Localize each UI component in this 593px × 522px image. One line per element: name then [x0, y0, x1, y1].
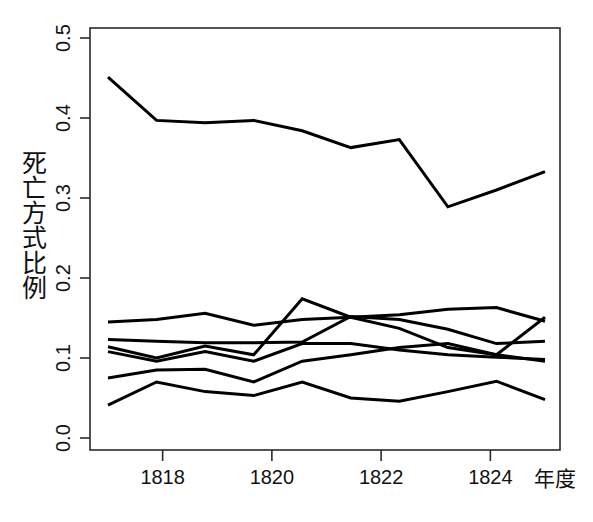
- axis-box: [90, 28, 560, 450]
- x-tick-label: 1820: [250, 466, 295, 489]
- y-tick-label: 0.1: [52, 332, 75, 384]
- chart-figure: 死亡方式比例 年度 1818182018221824 0.00.10.20.30…: [0, 0, 593, 522]
- series-line: [108, 308, 545, 326]
- series-lines: [108, 77, 545, 405]
- plot-border: [90, 28, 560, 450]
- y-tick-label: 0.4: [52, 92, 75, 144]
- plot-canvas: [0, 0, 593, 522]
- series-line: [108, 77, 545, 207]
- x-tick-label: 1824: [468, 466, 513, 489]
- y-axis-title: 死亡方式比例: [4, 150, 46, 300]
- x-axis-title: 年度: [534, 462, 576, 492]
- y-tick-label: 0.2: [52, 252, 75, 304]
- x-tick-label: 1822: [359, 466, 404, 489]
- x-tick-label: 1818: [140, 466, 185, 489]
- y-tick-label: 0.0: [52, 412, 75, 464]
- x-axis-ticks: [163, 450, 491, 461]
- y-tick-label: 0.5: [52, 12, 75, 64]
- series-line: [108, 316, 545, 343]
- series-line: [108, 381, 545, 405]
- series-line: [108, 344, 545, 382]
- y-tick-label: 0.3: [52, 172, 75, 224]
- y-axis-ticks: [80, 38, 90, 438]
